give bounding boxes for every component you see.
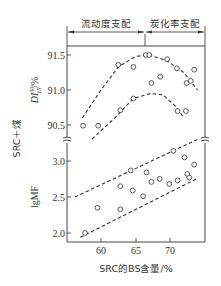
x-ticks [101, 238, 170, 242]
upper_dashed_curve [82, 55, 197, 118]
data-point [192, 67, 197, 72]
data-point [192, 162, 197, 167]
data-point [149, 81, 154, 86]
data-point [116, 62, 121, 67]
xtick-60: 60 [96, 245, 106, 256]
data-point [95, 205, 100, 210]
ytick-3-0: 3.0 [53, 156, 66, 167]
region-label-carbonization: 炭化率支配 [150, 18, 200, 29]
data-point [131, 96, 136, 101]
data-point [118, 207, 123, 212]
data-point [157, 177, 162, 182]
data-point [175, 109, 180, 114]
data-point [184, 109, 189, 114]
data-point [96, 123, 101, 128]
data-point [81, 123, 86, 128]
y-upper-label: DI3015/% [29, 77, 42, 105]
ytick-2-0: 2.0 [53, 228, 66, 239]
data-points [81, 53, 197, 236]
ytick-91-5: 91.5 [48, 50, 66, 61]
y-group-label: SRC＋煤 [11, 119, 22, 158]
data-point [128, 168, 133, 173]
data-point [130, 188, 135, 193]
data-point [182, 155, 187, 160]
region-label-fluidity: 流动度支配 [81, 18, 131, 29]
y-ticks-lower [67, 161, 71, 233]
ytick-2-5: 2.5 [53, 192, 66, 203]
data-point [171, 149, 176, 154]
data-point [118, 184, 123, 189]
data-point [141, 194, 146, 199]
data-point [187, 175, 192, 180]
data-point [158, 74, 163, 79]
lower_dashed_curve [92, 94, 184, 140]
y-ticks-upper [67, 55, 71, 125]
data-point [175, 178, 180, 183]
fit-lines [75, 55, 198, 237]
data-point [165, 57, 170, 62]
upper_bound_line [75, 139, 198, 197]
y-lower-label: lgMF [29, 185, 40, 208]
data-point [118, 108, 123, 113]
data-point [149, 180, 154, 185]
xtick-70: 70 [165, 245, 175, 256]
data-point [83, 231, 88, 236]
svg-text:DI3015/%: DI3015/% [29, 77, 42, 105]
data-point [167, 182, 172, 187]
xtick-65: 65 [131, 245, 141, 256]
data-point [144, 170, 149, 175]
chart: 流动度支配 炭化率支配 91.5 91.0 90.5 3.0 2.5 2.0 6… [0, 0, 221, 286]
ytick-90-5: 90.5 [48, 120, 66, 131]
ytick-91-0: 91.0 [48, 85, 66, 96]
plot-frame [63, 46, 209, 242]
data-point [175, 66, 180, 71]
x-axis-label: SRC的BS含量/% [99, 263, 172, 274]
data-point [147, 53, 152, 58]
region-header [67, 26, 205, 46]
data-point [188, 79, 193, 84]
data-point [131, 65, 136, 70]
